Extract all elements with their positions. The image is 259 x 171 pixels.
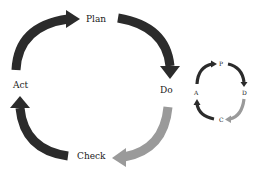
arrow-do-to-check-icon [112, 107, 168, 167]
label-small-a: A [194, 90, 198, 96]
label-do: Do [160, 86, 173, 95]
label-small-d: D [242, 90, 247, 96]
pdca-diagram: Plan Do Act Check P D C A [0, 0, 259, 171]
small-arrow-a-to-p-icon [197, 61, 217, 85]
label-act: Act [13, 81, 28, 90]
label-check: Check [77, 152, 106, 161]
small-arrow-c-to-a-icon [194, 99, 215, 119]
small-arrow-p-to-d-icon [228, 64, 248, 87]
label-small-c: C [219, 117, 224, 123]
small-arrow-d-to-c-icon [225, 99, 244, 123]
arrow-check-to-act-icon [10, 96, 68, 156]
pdca-arrows [0, 0, 259, 171]
arrow-act-to-plan-icon [16, 10, 80, 70]
label-small-p: P [219, 61, 223, 67]
label-plan: Plan [86, 15, 106, 24]
arrow-plan-to-do-icon [118, 18, 180, 79]
